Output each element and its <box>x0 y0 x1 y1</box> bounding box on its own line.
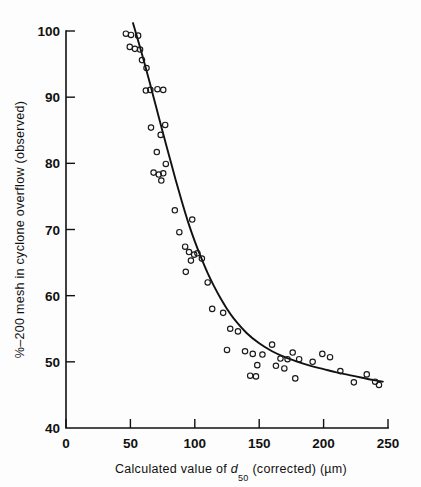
data-point <box>293 376 298 381</box>
x-tick-labels: 050100150200250 <box>62 436 399 451</box>
data-point <box>250 351 255 356</box>
data-point <box>310 359 315 364</box>
y-axis-title: %–200 mesh in cyclone overflow (observed… <box>13 101 27 359</box>
fit-curve <box>133 23 383 382</box>
data-point <box>320 351 325 356</box>
data-point <box>183 269 188 274</box>
data-point <box>253 374 258 379</box>
chart-figure: 050100150200250 405060708090100 Calculat… <box>0 0 421 487</box>
data-point <box>161 87 166 92</box>
x-tick-label-100: 100 <box>184 436 207 451</box>
data-point <box>209 306 214 311</box>
data-point <box>260 352 265 357</box>
data-point <box>376 382 381 387</box>
y-tick-labels: 405060708090100 <box>37 24 60 436</box>
x-tick-label-0: 0 <box>62 436 70 451</box>
x-axis-title-text: Calculated value of d50 (corrected) (µm) <box>115 462 347 483</box>
data-point <box>278 356 283 361</box>
data-point <box>162 122 167 127</box>
data-point <box>351 380 356 385</box>
data-point <box>242 349 247 354</box>
data-point <box>154 149 159 154</box>
data-points <box>123 31 381 388</box>
data-point <box>247 373 252 378</box>
data-point <box>190 217 195 222</box>
trend-line <box>133 23 383 382</box>
data-point <box>220 310 225 315</box>
y-tick-label-90: 90 <box>45 90 60 105</box>
data-point <box>159 178 164 183</box>
data-point <box>163 161 168 166</box>
data-point <box>128 32 133 37</box>
y-tick-label-40: 40 <box>45 421 60 436</box>
data-point <box>296 356 301 361</box>
data-point <box>282 366 287 371</box>
data-point <box>228 326 233 331</box>
data-point <box>327 355 332 360</box>
y-tick-label-70: 70 <box>45 223 60 238</box>
data-point <box>123 31 128 36</box>
data-point <box>186 249 191 254</box>
y-tick-label-60: 60 <box>45 289 60 304</box>
data-point <box>290 350 295 355</box>
data-point <box>235 329 240 334</box>
x-tick-label-250: 250 <box>377 436 400 451</box>
data-point <box>182 244 187 249</box>
data-point <box>188 258 193 263</box>
data-point <box>269 342 274 347</box>
data-point <box>364 372 369 377</box>
data-point <box>224 347 229 352</box>
data-point <box>155 87 160 92</box>
x-axis-subscript-50: 50 <box>238 473 249 483</box>
data-point <box>273 363 278 368</box>
data-point <box>148 125 153 130</box>
x-tick-label-200: 200 <box>312 436 335 451</box>
data-point <box>205 280 210 285</box>
data-point <box>177 229 182 234</box>
data-point <box>255 362 260 367</box>
y-tick-label-50: 50 <box>45 355 60 370</box>
x-tick-label-150: 150 <box>248 436 271 451</box>
data-point <box>132 46 137 51</box>
scatter-plot: 050100150200250 405060708090100 Calculat… <box>0 0 421 487</box>
data-point <box>172 208 177 213</box>
x-axis-title: Calculated value of d50 (corrected) (µm) <box>115 462 347 483</box>
y-tick-label-100: 100 <box>37 24 60 39</box>
x-tick-label-50: 50 <box>123 436 138 451</box>
y-axis-title-text: %–200 mesh in cyclone overflow (observed… <box>13 101 27 359</box>
y-tick-label-80: 80 <box>45 156 60 171</box>
